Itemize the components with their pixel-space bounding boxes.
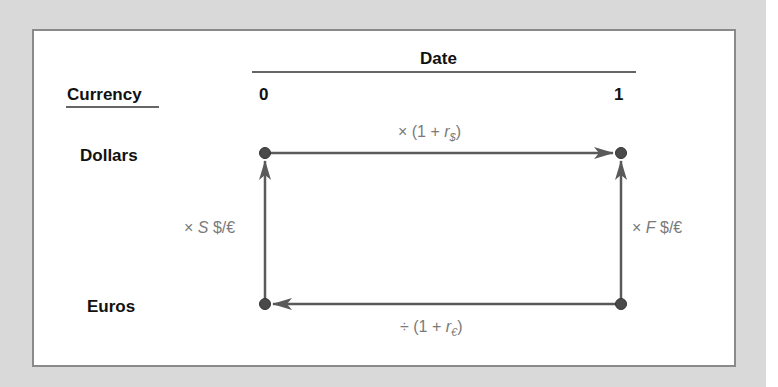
row-euros-label: Euros — [87, 297, 135, 317]
date-0-label: 0 — [259, 85, 268, 105]
date-1-label: 1 — [614, 85, 623, 105]
node-euros-1 — [616, 299, 627, 310]
date-header: Date — [420, 49, 457, 69]
node-dollars-1 — [616, 148, 627, 159]
row-dollars-label: Dollars — [80, 146, 138, 166]
node-dollars-0 — [260, 148, 271, 159]
edge-right-label: × F $/€ — [632, 219, 682, 237]
node-euros-0 — [260, 299, 271, 310]
edge-top-label: × (1 + r$) — [398, 123, 461, 143]
edge-bottom-label: ÷ (1 + r€) — [400, 318, 462, 338]
diagram-graphics — [0, 0, 778, 387]
edge-left-label: × S $/€ — [184, 219, 235, 237]
currency-header: Currency — [67, 85, 142, 105]
